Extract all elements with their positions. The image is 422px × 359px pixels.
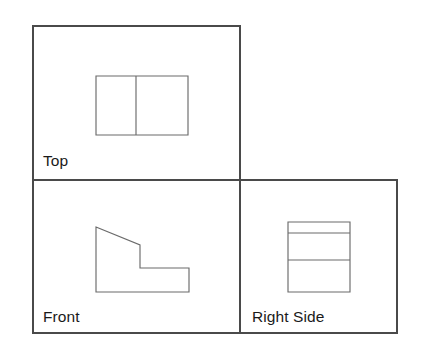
front-view-outline <box>96 227 189 292</box>
top-view-outline <box>96 76 188 135</box>
drawing-canvas <box>0 0 422 359</box>
front-view-geometry <box>96 227 189 292</box>
top-view-geometry <box>96 76 188 135</box>
right-side-view-geometry <box>288 222 350 292</box>
right-side-view-label: Right Side <box>252 309 325 325</box>
orthographic-drawing: Top Front Right Side <box>0 0 422 359</box>
front-view-label: Front <box>43 309 80 325</box>
top-view-label: Top <box>43 153 68 169</box>
